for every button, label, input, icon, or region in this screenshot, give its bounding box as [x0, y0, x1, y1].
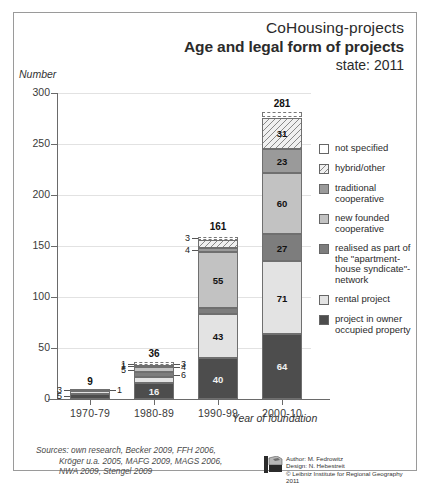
legend-item-label: realised as part of the "apartment-house… — [335, 243, 419, 285]
bar-segment[interactable]: 64 — [262, 334, 302, 399]
legend-swatch-icon — [319, 164, 329, 174]
legend-swatch-icon — [319, 214, 329, 224]
bar-segment[interactable] — [262, 112, 302, 117]
y-axis-tick-label: 0 — [17, 392, 50, 404]
segment-value-callout: 5 — [121, 365, 126, 375]
segment-value-label: 27 — [263, 244, 301, 254]
legend-item-traditional_coop[interactable]: traditional cooperative — [319, 183, 419, 204]
bar-segment[interactable]: 40 — [198, 358, 238, 399]
legend-swatch-icon — [319, 144, 329, 154]
legend-item-rental[interactable]: rental project — [319, 294, 419, 305]
credit-author: Author: M. Fedrowitz — [286, 455, 416, 462]
bar-segment[interactable]: 71 — [262, 261, 302, 333]
y-axis-tick-label: 50 — [17, 341, 50, 353]
legend-item-not_specified[interactable]: not specified — [319, 143, 419, 154]
segment-value-label: 43 — [199, 332, 237, 342]
bar-segment[interactable] — [134, 372, 174, 376]
callout-leader-line — [128, 370, 134, 371]
legend-item-label: project in owner occupied property — [335, 314, 419, 335]
y-axis-tick-label: 200 — [17, 188, 50, 200]
x-axis-tick — [282, 400, 283, 405]
segment-value-callout: 5 — [57, 391, 62, 401]
callout-leader-line — [110, 390, 116, 391]
bar-segment[interactable]: 55 — [198, 252, 238, 308]
legend-swatch-icon — [319, 184, 329, 194]
y-axis-tick-label: 250 — [17, 137, 50, 149]
bar-total-label: 281 — [252, 98, 312, 109]
bar-segment[interactable] — [70, 391, 110, 394]
bar-stack[interactable] — [70, 390, 110, 399]
callout-leader-line — [64, 396, 70, 397]
chart-state: state: 2011 — [184, 56, 404, 74]
segment-value-label: 40 — [199, 375, 237, 385]
bar-segment[interactable]: 16 — [134, 383, 174, 399]
callout-leader-line — [192, 238, 198, 239]
callout-leader-line — [174, 375, 180, 376]
segment-value-label: 23 — [263, 157, 301, 167]
x-axis-tick — [154, 400, 155, 405]
y-axis-tick-label: 100 — [17, 290, 50, 302]
bar-stack[interactable]: 647127602331 — [262, 112, 302, 399]
chart-supertitle: CoHousing-projects — [184, 19, 404, 37]
bar-segment[interactable]: 27 — [262, 234, 302, 262]
bar-total-label: 9 — [60, 376, 120, 387]
legend-item-owner[interactable]: project in owner occupied property — [319, 314, 419, 335]
callout-leader-line — [192, 250, 198, 251]
legend-swatch-icon — [319, 295, 329, 305]
plot-area: 05010015020025030091970-7916361980-89404… — [57, 93, 311, 399]
credit-copyright: © Leibniz Institute for Regional Geograp… — [286, 470, 416, 484]
bar-segment[interactable] — [134, 367, 174, 372]
bar-segment[interactable] — [134, 362, 174, 365]
callout-leader-line — [64, 390, 70, 391]
bar-segment[interactable] — [70, 394, 110, 399]
segment-value-callout: 6 — [181, 370, 186, 380]
chart-header: CoHousing-projects Age and legal form of… — [184, 19, 404, 74]
legend-item-label: new founded cooperative — [335, 213, 419, 234]
callout-leader-line — [128, 366, 134, 367]
bar-segment[interactable] — [198, 240, 238, 248]
legend-swatch-icon — [319, 315, 329, 325]
segment-value-callout: 1 — [117, 385, 122, 395]
bar-stack[interactable]: 16 — [134, 362, 174, 399]
bar-stack[interactable]: 404355 — [198, 235, 238, 399]
callout-leader-line — [174, 364, 180, 365]
y-axis-tick-label: 150 — [17, 239, 50, 251]
chart-card: CoHousing-projects Age and legal form of… — [13, 12, 417, 471]
segment-value-label: 31 — [263, 129, 301, 139]
legend-item-label: not specified — [335, 143, 388, 154]
bar-total-label: 161 — [188, 221, 248, 232]
segment-value-label: 64 — [263, 362, 301, 372]
legend-item-label: hybrid/other — [335, 163, 385, 174]
y-axis-line — [57, 93, 58, 399]
bar-segment[interactable] — [198, 237, 238, 240]
bar-segment[interactable] — [134, 377, 174, 383]
legend-item-label: traditional cooperative — [335, 183, 419, 204]
bar-segment[interactable] — [70, 389, 110, 391]
y-axis-tick-label: 300 — [17, 86, 50, 98]
segment-value-label: 16 — [135, 387, 173, 397]
chart-figure: CoHousing-projects Age and legal form of… — [0, 0, 429, 484]
x-axis-tick — [218, 400, 219, 405]
bar-segment[interactable] — [198, 248, 238, 252]
chart-legend: not specifiedhybrid/othertraditional coo… — [319, 143, 419, 344]
legend-item-hybrid_other[interactable]: hybrid/other — [319, 163, 419, 174]
segment-value-label: 71 — [263, 294, 301, 304]
segment-value-callout: 4 — [185, 245, 190, 255]
bar-segment[interactable]: 23 — [262, 149, 302, 172]
bar-segment[interactable]: 31 — [262, 118, 302, 150]
legend-item-new_coop[interactable]: new founded cooperative — [319, 213, 419, 234]
bar-segment[interactable] — [198, 308, 238, 314]
callout-leader-line — [174, 367, 180, 368]
institute-logo-icon — [264, 456, 283, 473]
bar-segment[interactable]: 43 — [198, 314, 238, 358]
y-axis-label: Number — [19, 68, 56, 80]
x-axis-tick-label: 2000-10 — [242, 407, 322, 419]
chart-title: Age and legal form of projects — [184, 37, 404, 56]
segment-value-label: 55 — [199, 276, 237, 286]
segment-value-callout: 3 — [185, 233, 190, 243]
legend-item-syndicate[interactable]: realised as part of the "apartment-house… — [319, 243, 419, 285]
sources-note: Sources: own research, Becker 2009, FFH … — [36, 445, 222, 477]
segment-value-label: 60 — [263, 199, 301, 209]
bar-segment[interactable]: 60 — [262, 173, 302, 234]
gridline — [57, 93, 311, 94]
